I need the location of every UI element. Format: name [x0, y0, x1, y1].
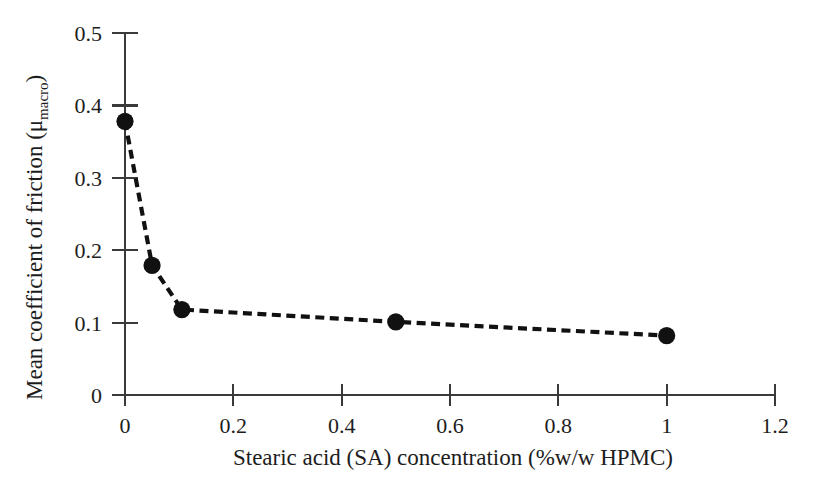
y-axis-title: Mean coefficient of friction (μmacro) — [22, 75, 51, 400]
series-data-point — [143, 257, 160, 274]
y-axis-title-subscript: macro — [35, 82, 51, 119]
y-tick-label: 0.3 — [75, 166, 103, 191]
y-tick-label: 0.1 — [75, 311, 103, 336]
x-tick-label: 1 — [661, 413, 672, 438]
y-axis-ticks: 00.10.20.30.40.5 — [75, 21, 139, 408]
series-data-point — [173, 301, 190, 318]
x-tick-label: 0.6 — [436, 413, 464, 438]
y-tick-label: 0.2 — [75, 238, 103, 263]
series-data-point — [387, 313, 404, 330]
x-tick-label: 0.2 — [220, 413, 248, 438]
y-axis-title-close: ) — [22, 75, 47, 83]
x-tick-label: 1.2 — [761, 413, 789, 438]
y-tick-label: 0.4 — [75, 93, 103, 118]
y-tick-label: 0 — [91, 383, 102, 408]
x-tick-label: 0.4 — [328, 413, 356, 438]
series-dashed-line — [125, 121, 667, 335]
x-tick-label: 0 — [120, 413, 131, 438]
x-axis-ticks: 00.20.40.60.811.2 — [120, 384, 789, 438]
y-axis-title-text: Mean coefficient of friction (μ — [22, 120, 47, 400]
x-axis-title: Stearic acid (SA) concentration (%w/w HP… — [233, 445, 673, 470]
series-data-point — [658, 327, 675, 344]
x-tick-label: 0.8 — [545, 413, 573, 438]
data-series-stearic-acid — [116, 113, 675, 345]
x-axis-title-text: Stearic acid (SA) concentration (%w/w HP… — [233, 445, 673, 470]
chart-plot-area: Mean coefficient of friction (μmacro) St… — [0, 0, 825, 488]
chart-figure: Mean coefficient of friction (μmacro) St… — [0, 0, 825, 488]
svg-text:Mean coefficient of friction (: Mean coefficient of friction (μmacro) — [22, 75, 51, 400]
series-data-point — [116, 113, 133, 130]
y-tick-label: 0.5 — [75, 21, 103, 46]
